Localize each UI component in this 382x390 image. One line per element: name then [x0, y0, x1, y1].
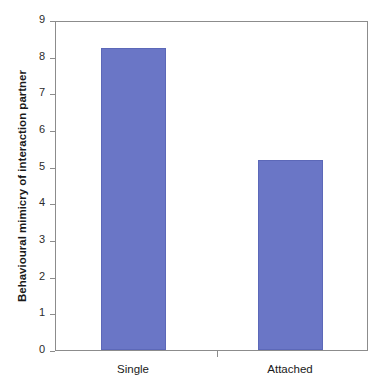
y-tick-label-1: 1: [39, 306, 45, 318]
y-tick-label-8: 8: [39, 50, 45, 62]
y-tick-label-4: 4: [39, 196, 45, 208]
y-tick-6: 6: [0, 131, 55, 132]
bar-single: [101, 48, 166, 350]
y-tick-8: 8: [0, 58, 55, 59]
x-category-label-attached: Attached: [250, 363, 330, 375]
x-axis-separator-tick: [217, 351, 218, 357]
y-tick-1: 1: [0, 314, 55, 315]
y-tick-4: 4: [0, 204, 55, 205]
y-tick-label-3: 3: [39, 233, 45, 245]
bar-attached: [258, 160, 323, 350]
y-tick-label-6: 6: [39, 123, 45, 135]
y-tick-label-5: 5: [39, 160, 45, 172]
y-tick-label-0: 0: [39, 343, 45, 355]
y-tick-label-9: 9: [39, 13, 45, 25]
y-tick-0: 0: [0, 351, 55, 352]
x-category-label-single: Single: [93, 363, 173, 375]
bar-chart-figure: Behavioural mimicry of interaction partn…: [0, 0, 382, 390]
y-axis-title: Behavioural mimicry of interaction partn…: [14, 21, 30, 351]
y-tick-label-7: 7: [39, 86, 45, 98]
y-tick-9: 9: [0, 21, 55, 22]
y-tick-7: 7: [0, 94, 55, 95]
y-tick-mark-0: [50, 351, 55, 352]
y-tick-2: 2: [0, 278, 55, 279]
y-tick-label-2: 2: [39, 270, 45, 282]
y-tick-3: 3: [0, 241, 55, 242]
plot-area: [55, 21, 368, 351]
y-tick-5: 5: [0, 168, 55, 169]
